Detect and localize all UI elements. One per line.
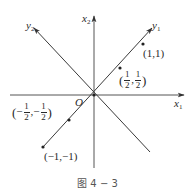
figure-caption: 图 4 − 3 <box>0 175 195 190</box>
coordinate-rotation-diagram: x2 y2 y1 x1 O (1,1) (12,12) (−12,−12) (−… <box>0 0 195 193</box>
fraction-half: 12 <box>24 102 30 122</box>
point-label-half-half: (12,12) <box>119 70 146 90</box>
origin-point <box>92 93 95 96</box>
y2-axis <box>34 28 150 152</box>
x1-axis-label: x1 <box>174 98 182 111</box>
origin-label: O <box>75 97 83 108</box>
fraction-half: 12 <box>41 102 47 122</box>
x2-axis-label: x2 <box>82 13 90 26</box>
point-label-neg-half-neg-half: (−12,−12) <box>12 102 52 122</box>
point-label-1-1: (1,1) <box>143 48 164 59</box>
fraction-half: 12 <box>124 70 130 90</box>
point-neg1-neg1 <box>41 145 44 148</box>
y2-axis-label: y2 <box>26 20 34 33</box>
point-label-neg1-neg1: (−1,−1) <box>44 151 77 162</box>
fraction-half: 12 <box>135 70 141 90</box>
point-neg-half-neg-half <box>67 118 70 121</box>
point-1-1 <box>141 42 144 45</box>
y1-axis-label: y1 <box>152 20 160 33</box>
